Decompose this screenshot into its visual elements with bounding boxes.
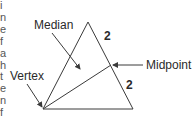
midpoint-label: Midpoint xyxy=(146,58,192,72)
median-line xyxy=(43,65,111,109)
edge-fragment: t xyxy=(0,70,3,82)
edge-fragment: e xyxy=(0,82,6,94)
segment-length-bottom: 2 xyxy=(126,78,133,92)
edge-fragment: f xyxy=(0,106,4,118)
median-label: Median xyxy=(34,18,73,32)
vertex-arrow xyxy=(27,84,42,107)
triangle-median-diagram: i n e f a h t e n f Median Vertex Midpoi… xyxy=(0,0,196,124)
edge-fragment: n xyxy=(0,11,6,23)
edge-fragment: e xyxy=(0,23,6,35)
edge-fragment: i xyxy=(0,0,2,11)
vertex-label: Vertex xyxy=(10,69,44,83)
segment-length-top: 2 xyxy=(104,29,111,43)
edge-fragment: a xyxy=(0,47,7,59)
left-edge-text-fragments: i n e f a h t e n f xyxy=(0,0,7,118)
edge-fragment: n xyxy=(0,94,6,106)
edge-fragment: f xyxy=(0,35,4,47)
